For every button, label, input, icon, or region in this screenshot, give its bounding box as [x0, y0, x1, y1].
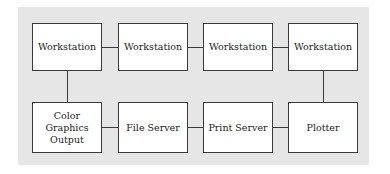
- node-label-line: Output: [45, 134, 88, 146]
- node-label: Workstation: [209, 41, 267, 53]
- node-label: Print Server: [208, 122, 267, 134]
- connector-ws1-color-graphics: [67, 71, 68, 102]
- connector-ws3-ws4: [273, 47, 288, 48]
- node-workstation-3: Workstation: [203, 23, 273, 71]
- node-file-server: File Server: [118, 102, 188, 153]
- connector-color-graphics-file-server: [102, 127, 118, 128]
- node-print-server: Print Server: [203, 102, 273, 153]
- node-label: File Server: [126, 122, 180, 134]
- connector-file-server-print-server: [188, 127, 203, 128]
- connector-print-server-plotter: [273, 127, 288, 128]
- node-label-line: Graphics: [45, 122, 88, 134]
- node-label: Workstation: [38, 41, 96, 53]
- connector-ws4-plotter: [323, 71, 324, 102]
- node-plotter: Plotter: [288, 102, 358, 153]
- connector-ws1-ws2: [102, 47, 118, 48]
- node-workstation-2: Workstation: [118, 23, 188, 71]
- node-label-line: Color: [45, 110, 88, 122]
- node-label: Plotter: [307, 122, 340, 134]
- connector-ws2-ws3: [188, 47, 203, 48]
- node-workstation-4: Workstation: [288, 23, 358, 71]
- node-workstation-1: Workstation: [32, 23, 102, 71]
- node-label: Workstation: [294, 41, 352, 53]
- node-label: Workstation: [124, 41, 182, 53]
- node-color-graphics-output: Color Graphics Output: [32, 102, 102, 153]
